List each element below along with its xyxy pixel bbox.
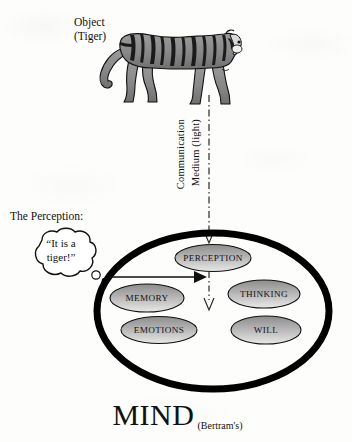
node-label-memory: MEMORY [111,293,183,303]
node-label-will: WILL [231,325,301,335]
mind-title: MIND [112,398,194,431]
mind-attribution: (Bertram's) [197,420,242,431]
thought-bubble-line2: tiger!” [30,250,92,264]
node-label-emotions: EMOTIONS [121,325,197,335]
mind-caption: MIND(Bertram's) [0,398,352,432]
diagram-canvas: Object (Tiger) [0,0,352,442]
mind-diagram [0,0,352,442]
internal-channel-arrow [204,272,214,310]
node-label-thinking: THINKING [228,289,300,299]
thought-bubble-line1: “It is a [30,236,92,250]
thought-bubble-text: “It is a tiger!” [30,236,92,264]
node-label-perception: PERCEPTION [175,253,251,263]
perception-input-arrow [109,271,207,283]
